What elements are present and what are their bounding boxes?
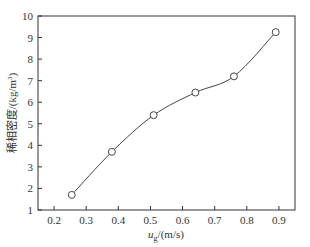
x-axis-title: ug/(m/s) bbox=[148, 228, 184, 243]
chart-canvas: 0.20.30.40.50.60.70.80.9 12345678910 ug/… bbox=[0, 0, 310, 247]
y-axis-ticks: 12345678910 bbox=[22, 10, 42, 216]
y-tick-label: 4 bbox=[28, 139, 34, 151]
x-tick-label: 0.5 bbox=[144, 214, 158, 226]
data-point bbox=[108, 148, 115, 155]
y-tick-label: 10 bbox=[22, 10, 34, 22]
y-tick-label: 8 bbox=[28, 53, 34, 65]
y-tick-label: 7 bbox=[28, 75, 34, 87]
data-markers bbox=[68, 29, 279, 199]
y-tick-label: 3 bbox=[28, 161, 34, 173]
fitted-curve bbox=[72, 32, 276, 195]
data-point bbox=[150, 112, 157, 119]
data-point bbox=[272, 29, 279, 36]
data-point bbox=[230, 73, 237, 80]
plot-frame bbox=[38, 16, 295, 210]
x-tick-label: 0.3 bbox=[79, 214, 93, 226]
y-tick-label: 2 bbox=[28, 182, 34, 194]
x-tick-label: 0.7 bbox=[208, 214, 222, 226]
y-tick-label: 6 bbox=[28, 96, 34, 108]
x-axis-ticks: 0.20.30.40.50.60.70.80.9 bbox=[47, 206, 286, 226]
x-tick-label: 0.6 bbox=[176, 214, 190, 226]
y-axis-title: 稀相密度/(kg/m3) bbox=[5, 72, 19, 153]
x-tick-label: 0.4 bbox=[111, 214, 125, 226]
y-tick-label: 9 bbox=[28, 32, 34, 44]
data-point bbox=[68, 191, 75, 198]
data-point bbox=[192, 89, 199, 96]
x-tick-label: 0.2 bbox=[47, 214, 61, 226]
x-tick-label: 0.9 bbox=[272, 214, 286, 226]
y-tick-label: 1 bbox=[28, 204, 34, 216]
y-tick-label: 5 bbox=[28, 118, 34, 130]
x-tick-label: 0.8 bbox=[240, 214, 254, 226]
